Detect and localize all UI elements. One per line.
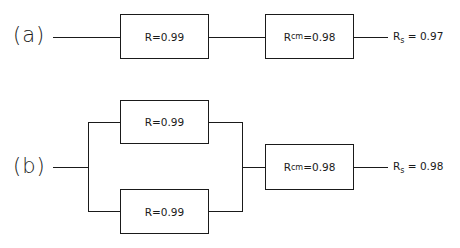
split-bus (88, 122, 89, 212)
connector-line (354, 167, 388, 168)
connector-line (88, 211, 120, 212)
block-value: =0.98 (303, 31, 335, 43)
system-reliability-a: Rs = 0.97 (393, 30, 443, 45)
block-subscript: cm (291, 32, 303, 41)
block-value: =0.99 (152, 116, 184, 128)
block-value: =0.99 (152, 31, 184, 43)
block-symbol: R (284, 31, 291, 43)
label-a: (a) (13, 23, 45, 47)
block-r: R=0.99 (120, 14, 209, 59)
system-reliability-b: Rs = 0.98 (393, 160, 443, 175)
connector-line (209, 37, 265, 38)
result-value: = 0.98 (404, 160, 443, 172)
block-rcm: Rcm=0.98 (265, 144, 354, 190)
connector-line (209, 211, 242, 212)
block-r-upper: R=0.99 (120, 100, 209, 144)
label-b: (b) (13, 154, 46, 178)
block-symbol: R (145, 116, 152, 128)
connector-line (53, 37, 120, 38)
connector-line (354, 37, 388, 38)
block-r-lower: R=0.99 (120, 189, 209, 234)
block-subscript: cm (291, 163, 303, 172)
connector-line (53, 167, 88, 168)
result-value: = 0.97 (404, 30, 443, 42)
block-symbol: R (284, 161, 291, 173)
block-symbol: R (145, 31, 152, 43)
block-rcm: Rcm=0.98 (265, 14, 354, 59)
block-value: =0.99 (152, 206, 184, 218)
block-value: =0.98 (303, 161, 335, 173)
connector-line (242, 167, 265, 168)
block-symbol: R (145, 206, 152, 218)
connector-line (209, 122, 242, 123)
connector-line (88, 122, 120, 123)
